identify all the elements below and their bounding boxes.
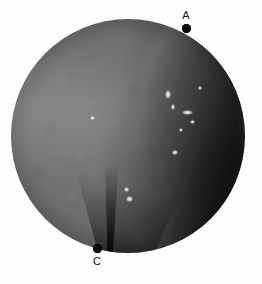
specular-highlight <box>198 86 202 90</box>
landmark-dot-a[interactable] <box>182 24 191 33</box>
specular-highlight <box>124 187 129 192</box>
specular-highlight <box>90 116 95 120</box>
endoscopic-field-of-view <box>11 19 245 253</box>
figure-root: AC <box>0 0 262 284</box>
landmark-dot-c[interactable] <box>93 244 102 253</box>
mucosal-texture-overlay <box>11 19 245 253</box>
mucosal-cleft-shadow <box>62 150 198 253</box>
specular-highlight <box>190 120 195 124</box>
specular-highlight <box>179 128 183 132</box>
specular-highlight <box>182 110 193 115</box>
landmark-label-a: A <box>176 10 196 21</box>
specular-highlight <box>126 196 133 202</box>
specular-highlight <box>171 104 175 110</box>
caption-strip <box>0 274 262 284</box>
field-vignette <box>11 19 245 253</box>
mucosal-fold <box>119 19 245 253</box>
mucosal-cleft-line <box>88 164 130 253</box>
specular-highlight <box>172 150 178 155</box>
landmark-label-c: C <box>87 256 107 267</box>
specular-highlight <box>165 90 171 99</box>
